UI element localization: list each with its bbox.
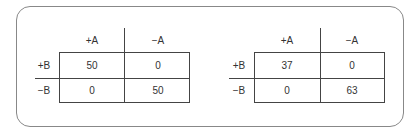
table-bottom-border — [254, 102, 385, 103]
table-cell: 0 — [143, 60, 173, 72]
column-divider — [124, 28, 125, 103]
table-right-border — [384, 52, 385, 103]
table-top-border — [254, 52, 385, 53]
table-cell: 50 — [143, 85, 173, 97]
column-header: +A — [272, 35, 302, 47]
row-divider — [229, 78, 385, 79]
column-header: −A — [337, 35, 367, 47]
row-header: −B — [227, 85, 251, 97]
row-header: +B — [32, 60, 56, 72]
table-cell: 37 — [272, 60, 302, 72]
table-cell: 0 — [77, 85, 107, 97]
table-right-border — [189, 52, 190, 103]
table-cell: 0 — [337, 60, 367, 72]
table-left-border — [59, 52, 60, 103]
table-cell: 0 — [272, 85, 302, 97]
row-header: +B — [227, 60, 251, 72]
column-header: −A — [143, 35, 173, 47]
column-header: +A — [77, 35, 107, 47]
table-left-border — [254, 52, 255, 103]
table-cell: 50 — [77, 60, 107, 72]
column-divider — [320, 28, 321, 103]
table-top-border — [59, 52, 190, 53]
table-cell: 63 — [337, 85, 367, 97]
table-bottom-border — [59, 102, 190, 103]
row-header: −B — [32, 85, 56, 97]
